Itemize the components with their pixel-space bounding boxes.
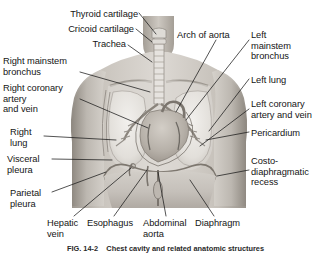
bronchial-tree bbox=[116, 122, 205, 146]
label-cricoid-cartilage: Cricoid cartilage bbox=[0, 24, 134, 35]
tracheal-rings bbox=[154, 44, 164, 98]
figure-caption: FIG. 14-2 Chest cavity and related anato… bbox=[0, 244, 331, 253]
leader-diaphragm bbox=[190, 180, 214, 216]
leader-costodiaphragmatic-recess bbox=[217, 170, 249, 176]
left-clavicle bbox=[166, 81, 208, 86]
label-left-mainstem-bronchus: Left mainstem bronchus bbox=[251, 30, 329, 62]
costodiaphragmatic-recess-shape bbox=[208, 176, 216, 186]
leader-hepatic-vein bbox=[74, 168, 131, 216]
anatomy-figure: Thyroid cartilage Cricoid cartilage Trac… bbox=[0, 0, 331, 257]
leader-trachea bbox=[128, 45, 152, 62]
esophagus-shape bbox=[147, 166, 148, 186]
left-coronary-vessel bbox=[176, 122, 180, 150]
label-abdominal-aorta: Abdominal aorta bbox=[143, 218, 197, 239]
caption-space bbox=[100, 244, 104, 253]
thoracic-cavity bbox=[106, 80, 214, 170]
right-costodiaphragmatic-recess bbox=[104, 176, 112, 186]
thyroid-cartilage-shape bbox=[152, 28, 166, 38]
leader-thyroid-cartilage bbox=[139, 13, 156, 34]
leader-arch-of-aorta bbox=[176, 40, 216, 112]
right-lung-shape bbox=[109, 91, 147, 166]
right-coronary-vessel bbox=[148, 124, 150, 150]
left-shoulder-shape bbox=[212, 70, 247, 206]
leader-left-mainstem-bronchus bbox=[186, 40, 249, 120]
right-clavicle bbox=[110, 81, 152, 86]
hepatic-vein-opening bbox=[131, 164, 136, 169]
label-left-coronary-artery-and-vein: Left coronary artery and vein bbox=[251, 99, 331, 120]
leader-esophagus bbox=[114, 170, 147, 216]
label-visceral-pleura: Visceral pleura bbox=[7, 154, 71, 175]
label-trachea: Trachea bbox=[0, 39, 126, 50]
aortic-bulge bbox=[154, 181, 163, 199]
label-thyroid-cartilage: Thyroid cartilage bbox=[0, 9, 138, 20]
arch-of-aorta-shape bbox=[162, 102, 184, 118]
label-esophagus: Esophagus bbox=[87, 218, 145, 229]
label-left-lung: Left lung bbox=[251, 75, 329, 86]
visceral-pleura-shape bbox=[106, 92, 110, 152]
figure-number: FIG. 14-2 bbox=[67, 244, 98, 253]
figure-title: Chest cavity and related anatomic struct… bbox=[106, 244, 264, 253]
label-costodiaphragmatic-recess: Costo- diaphragmatic recess bbox=[251, 156, 331, 188]
leader-left-coronary bbox=[200, 109, 249, 146]
label-hepatic-vein: Hepatic vein bbox=[47, 218, 91, 239]
leader-pericardium bbox=[206, 132, 249, 140]
pericardium-shape bbox=[136, 110, 193, 166]
diaphragm-shape bbox=[104, 164, 216, 176]
label-arch-of-aorta: Arch of aorta bbox=[177, 30, 257, 41]
abdomen-shape bbox=[104, 172, 216, 209]
leader-abdominal-aorta bbox=[158, 172, 166, 216]
label-right-mainstem-bronchus: Right mainstem bronchus bbox=[3, 56, 103, 77]
label-diaphragm: Diaphragm bbox=[195, 218, 253, 229]
neck-shape bbox=[143, 16, 174, 58]
hepatic-vein-shape bbox=[129, 164, 132, 176]
heart-shape bbox=[140, 110, 189, 162]
leader-left-lung bbox=[209, 79, 249, 131]
label-pericardium: Pericardium bbox=[251, 128, 329, 139]
left-mainstem-bronchus-shape bbox=[161, 104, 197, 140]
leader-cricoid-cartilage bbox=[136, 29, 152, 42]
label-parietal-pleura: Parietal pleura bbox=[10, 188, 74, 209]
label-right-coronary-artery-and-vein: Right coronary artery and vein bbox=[3, 83, 103, 115]
label-right-lung: Right lung bbox=[10, 127, 70, 148]
left-lung-shape bbox=[173, 91, 211, 166]
right-mainstem-bronchus-shape bbox=[124, 104, 158, 140]
trachea-shape bbox=[154, 36, 164, 104]
cricoid-cartilage-shape bbox=[152, 39, 166, 44]
